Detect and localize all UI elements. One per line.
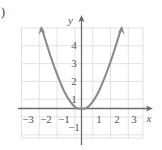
x-tick-label--3: −3 xyxy=(22,113,34,125)
x-axis-label: x xyxy=(146,112,152,124)
y-tick-label-2: 2 xyxy=(71,75,77,87)
x-tick-label-2: 2 xyxy=(114,113,120,125)
y-tick-label--1: −1 xyxy=(68,121,80,133)
y-tick-label-1: 1 xyxy=(71,93,77,105)
y-tick-label-3: 3 xyxy=(71,57,77,69)
graph-figure: −3 −2 −1 1 2 3 4 3 2 1 −1 y x ) xyxy=(0,0,162,150)
x-tick-label-3: 3 xyxy=(131,113,137,125)
y-axis-label: y xyxy=(67,14,73,26)
y-tick-label-4: 4 xyxy=(71,39,77,51)
corner-mark: ) xyxy=(1,5,5,19)
x-tick-label--2: −2 xyxy=(40,113,52,125)
x-tick-label-1: 1 xyxy=(96,113,102,125)
